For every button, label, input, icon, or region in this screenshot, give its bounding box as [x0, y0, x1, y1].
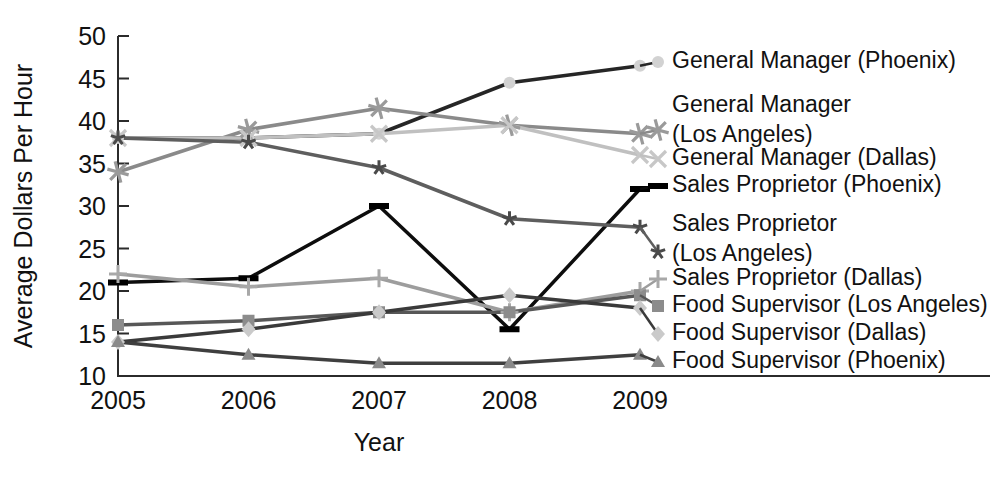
legend-leader-line	[640, 227, 658, 252]
legend-marker	[648, 183, 668, 189]
legend-item[interactable]: Sales Proprietor (Dallas)	[672, 264, 923, 290]
legend-item-label: Sales Proprietor	[672, 210, 837, 236]
legend-item-label: (Los Angeles)	[672, 240, 813, 266]
y-tick-label: 30	[78, 192, 106, 220]
y-tick-label: 15	[78, 320, 106, 348]
line-chart: 101520253035404550 20052006200720082009 …	[0, 0, 1007, 478]
legend-item[interactable]: General Manager (Dallas)	[672, 144, 937, 170]
x-tick-label: 2007	[351, 386, 407, 414]
data-point-marker	[369, 203, 389, 209]
legend-item-label: Food Supervisor (Phoenix)	[672, 347, 946, 373]
legend: General Manager (Phoenix)General Manager…	[672, 47, 988, 373]
legend-leader-line	[640, 279, 658, 291]
legend-item-label: General Manager	[672, 91, 851, 117]
legend-item-label: General Manager (Phoenix)	[672, 47, 956, 73]
x-tick-label: 2008	[482, 386, 538, 414]
x-tick-label: 2006	[221, 386, 277, 414]
legend-item-label: Food Supervisor (Dallas)	[672, 319, 926, 345]
y-tick-label: 20	[78, 277, 106, 305]
data-point-marker	[372, 160, 386, 174]
data-point-marker	[502, 211, 516, 225]
legend-item-label: Food Supervisor (Los Angeles)	[672, 291, 988, 317]
legend-item[interactable]: Sales Proprietor(Los Angeles)	[672, 210, 837, 266]
legend-item[interactable]: Food Supervisor (Dallas)	[672, 319, 926, 345]
legend-item[interactable]: General Manager(Los Angeles)	[672, 91, 851, 147]
legend-item[interactable]: Food Supervisor (Los Angeles)	[672, 291, 988, 317]
data-point-marker	[500, 326, 520, 332]
legend-item-label: General Manager (Dallas)	[672, 144, 937, 170]
y-axis-title: Average Dollars Per Hour	[9, 64, 37, 348]
legend-item[interactable]: Sales Proprietor (Phoenix)	[672, 171, 942, 197]
data-point-marker	[112, 319, 124, 331]
data-point-marker	[504, 306, 516, 318]
y-tick-label: 25	[78, 235, 106, 263]
y-tick-label: 50	[78, 22, 106, 50]
y-tick-label: 40	[78, 107, 106, 135]
legend-marker	[652, 300, 664, 312]
legend-leader-lines	[640, 56, 669, 367]
data-point-marker	[504, 77, 516, 89]
legend-marker	[647, 119, 668, 140]
legend-marker	[649, 270, 667, 288]
data-point-marker	[370, 269, 388, 287]
y-tick-label: 45	[78, 65, 106, 93]
x-tick-label: 2005	[90, 386, 146, 414]
legend-item-label: Sales Proprietor (Phoenix)	[672, 171, 942, 197]
legend-item[interactable]: General Manager (Phoenix)	[672, 47, 956, 73]
legend-marker	[652, 56, 664, 68]
series-line	[118, 138, 640, 227]
chart-canvas: 101520253035404550 20052006200720082009 …	[0, 0, 1007, 478]
legend-item[interactable]: Food Supervisor (Phoenix)	[672, 347, 946, 373]
x-axis-title: Year	[354, 428, 405, 456]
x-tick-label: 2009	[612, 386, 668, 414]
data-point-marker	[503, 287, 517, 303]
data-point-marker	[633, 220, 647, 234]
x-axis-ticks: 20052006200720082009	[90, 386, 668, 414]
y-tick-label: 35	[78, 150, 106, 178]
y-axis-ticks: 101520253035404550	[78, 22, 129, 390]
legend-item-label: Sales Proprietor (Dallas)	[672, 264, 923, 290]
